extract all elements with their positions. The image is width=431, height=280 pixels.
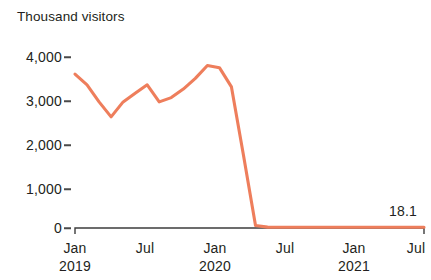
- end-value-annotation: 18.1: [389, 203, 417, 219]
- x-tick-month: Jan: [338, 240, 370, 257]
- x-tick-year: 2021: [338, 257, 370, 275]
- x-tick-jul-2020: Jul: [276, 240, 295, 257]
- x-tick-jul-2021: Jul: [407, 240, 426, 257]
- chart-container: Thousand visitors 4,000 3,000 2,000 1,00…: [0, 0, 431, 280]
- data-series-line: [75, 66, 424, 228]
- x-tick-month: Jul: [136, 240, 155, 257]
- axis-line: [75, 228, 424, 234]
- x-tick-month: Jul: [407, 240, 426, 257]
- x-tick-jan-2020: Jan 2020: [199, 240, 231, 275]
- x-tick-jan-2019: Jan 2019: [59, 240, 91, 275]
- x-tick-month: Jan: [199, 240, 231, 257]
- x-tick-month: Jul: [276, 240, 295, 257]
- x-tick-year: 2020: [199, 257, 231, 275]
- x-tick-jul-2019: Jul: [136, 240, 155, 257]
- x-tick-year: 2019: [59, 257, 91, 275]
- x-tick-month: Jan: [59, 240, 91, 257]
- x-tick-jan-2021: Jan 2021: [338, 240, 370, 275]
- plot-area: [0, 0, 431, 280]
